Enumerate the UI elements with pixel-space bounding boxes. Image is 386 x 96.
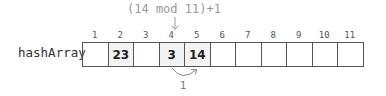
index-label: 9 [286, 30, 312, 40]
index-label: 8 [261, 30, 287, 40]
index-label: 2 [108, 30, 134, 40]
down-arrow-icon [170, 17, 180, 31]
array-cell [287, 43, 313, 66]
array-cell: 14 [185, 43, 211, 66]
array-cell [338, 43, 364, 66]
array-cell [236, 43, 262, 66]
index-label: 6 [210, 30, 236, 40]
index-label: 10 [312, 30, 338, 40]
hash-array: 23 3 14 [82, 42, 364, 67]
index-label: 5 [184, 30, 210, 40]
array-cell [211, 43, 237, 66]
array-cell: 3 [160, 43, 186, 66]
hash-formula: (14 mod 11)+1 [127, 2, 221, 16]
array-label: hashArray [18, 45, 86, 60]
index-label: 11 [337, 30, 363, 40]
array-cell [83, 43, 109, 66]
array-cell [134, 43, 160, 66]
index-label: 3 [133, 30, 159, 40]
array-cell [262, 43, 288, 66]
array-cell: 23 [109, 43, 135, 66]
index-label: 7 [235, 30, 261, 40]
index-row: 1 2 3 4 5 6 7 8 9 10 11 [82, 30, 363, 40]
array-cell [313, 43, 339, 66]
probe-step-label: 1 [180, 80, 186, 91]
index-label: 4 [159, 30, 185, 40]
index-label: 1 [82, 30, 108, 40]
